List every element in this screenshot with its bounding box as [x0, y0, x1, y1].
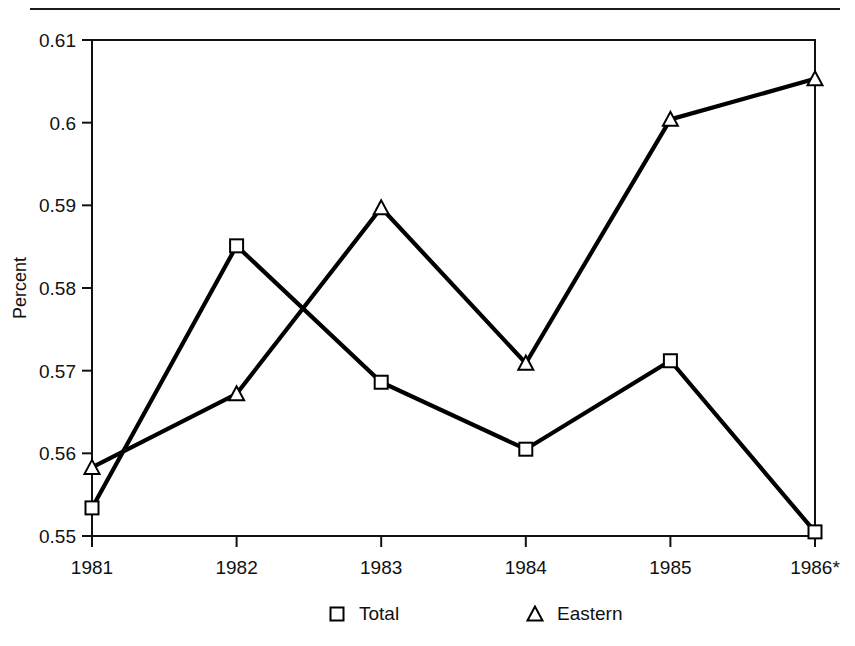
x-tick-label: 1986* [790, 557, 840, 578]
x-tick-label: 1981 [71, 557, 113, 578]
y-axis: 0.550.560.570.580.590.60.61 [39, 30, 92, 547]
x-tick-label: 1984 [505, 557, 548, 578]
y-tick-label: 0.55 [39, 526, 76, 547]
triangle-marker-icon [374, 200, 389, 214]
data-series [92, 79, 815, 468]
y-tick-label: 0.56 [39, 443, 76, 464]
series-line-total [92, 246, 815, 532]
y-axis-title-label: Percent [10, 257, 30, 319]
square-marker-icon [230, 239, 243, 252]
y-tick-label: 0.59 [39, 195, 76, 216]
chart-legend: TotalEastern [331, 603, 623, 624]
square-marker-icon [664, 354, 677, 367]
square-marker-icon [86, 501, 99, 514]
triangle-marker-icon [528, 607, 543, 621]
legend-item-total[interactable]: Total [331, 603, 400, 624]
chart-figure: 0.550.560.570.580.590.60.61 198119821983… [0, 0, 855, 646]
data-series-group [85, 71, 823, 538]
y-tick-label: 0.57 [39, 361, 76, 382]
line-chart-canvas: 0.550.560.570.580.590.60.61 198119821983… [0, 0, 855, 646]
legend-label: Total [359, 603, 399, 624]
series-line-eastern [92, 79, 815, 468]
y-tick-label: 0.6 [50, 113, 76, 134]
square-marker-icon [809, 525, 822, 538]
y-tick-label: 0.61 [39, 30, 76, 51]
square-marker-icon [519, 443, 532, 456]
x-tick-label: 1985 [649, 557, 691, 578]
top-divider-rule [30, 8, 840, 10]
square-marker-icon [331, 608, 344, 621]
square-marker-icon [375, 376, 388, 389]
legend-item-eastern[interactable]: Eastern [528, 603, 623, 624]
y-axis-title: Percent [10, 257, 30, 319]
x-tick-label: 1983 [360, 557, 402, 578]
legend-label: Eastern [557, 603, 622, 624]
y-tick-label: 0.58 [39, 278, 76, 299]
x-axis: 198119821983198419851986* [71, 536, 841, 578]
x-tick-label: 1982 [215, 557, 257, 578]
data-series [92, 246, 815, 532]
